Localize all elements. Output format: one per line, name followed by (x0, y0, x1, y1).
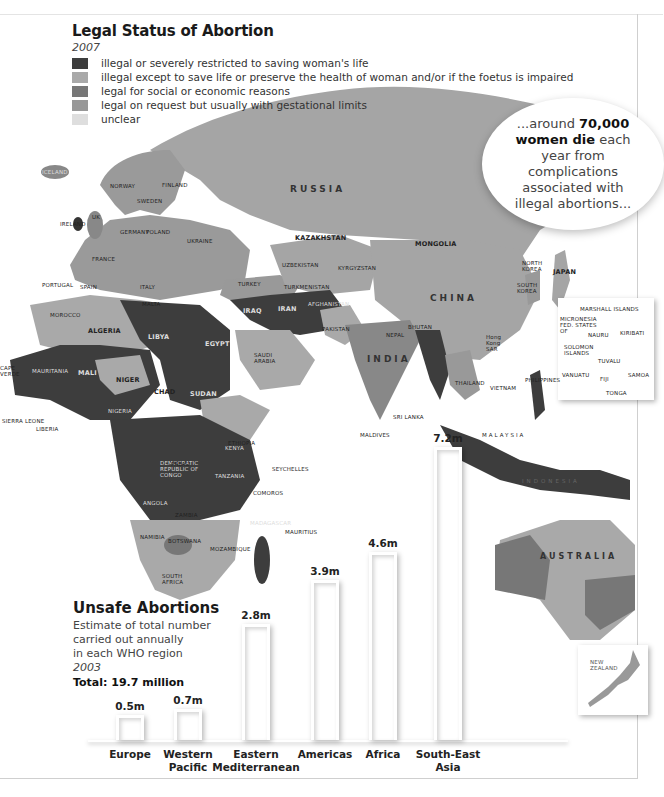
callout-bold: women die (515, 132, 595, 147)
map-label-mauritius: MAURITIUS (285, 529, 317, 535)
map-label-spain: SPAIN (80, 284, 97, 290)
map-label-sri-lanka: SRI LANKA (393, 414, 424, 420)
map-label-vietnam: VIETNAM (490, 385, 516, 391)
map-label-sierra-leone: SIERRA LEONE (2, 418, 44, 424)
map-label-china: CHINA (430, 293, 477, 303)
callout-text: illegal abortions... (515, 196, 631, 211)
map-label-germany: GERMANY (120, 229, 149, 235)
map-label-niger: NIGER (116, 376, 140, 384)
bar-value-label: 7.2m (423, 432, 473, 444)
map-label-russia: RUSSIA (290, 184, 345, 194)
map-label-norway: NORWAY (110, 183, 135, 189)
map-label-indonesia: INDONESIA (522, 478, 580, 484)
unsafe-description: Estimate of total number carried out ann… (73, 619, 219, 675)
map-label-vanuatu: VANUATU (562, 372, 589, 378)
legend-item: legal for social or economic reasons (72, 84, 573, 98)
map-label-mozambique: MOZAMBIQUE (210, 546, 251, 552)
bar-value-label: 4.6m (358, 537, 408, 549)
map-label-turkmenistan: TURKMENISTAN (284, 284, 329, 290)
map-label-turkey: TURKEY (238, 281, 261, 287)
unsafe-total: Total: 19.7 million (73, 676, 219, 689)
map-label-sudan: SUDAN (190, 390, 217, 398)
desc-line: carried out annually (73, 633, 219, 647)
legend-swatch (72, 100, 88, 111)
callout-text: each (595, 132, 630, 147)
desc-line: Estimate of total number (73, 619, 219, 633)
map-label-afghanistan: AFGHANISTAN (308, 301, 349, 307)
map-label-kazakhstan: KAZAKHSTAN (295, 234, 346, 242)
map-label-australia: AUSTRALIA (540, 552, 617, 561)
map-label-nigeria: NIGERIA (108, 408, 132, 414)
legend-label: illegal except to save life or preserve … (101, 71, 573, 83)
unsafe-year: 2003 (73, 661, 219, 675)
bar-value-label: 3.9m (300, 565, 350, 577)
legend-item: legal on request but usually with gestat… (72, 98, 573, 112)
legend-swatch (72, 72, 88, 83)
map-label-nauru: NAURU (588, 332, 609, 338)
legend-title: Legal Status of Abortion (72, 22, 573, 40)
map-label-south-korea: SOUTH KOREA (517, 282, 539, 294)
desc-line: in each WHO region (73, 647, 219, 661)
map-label-iraq: IRAQ (243, 307, 262, 315)
map-label-mali: MALI (78, 369, 97, 377)
map-label-morocco: MOROCCO (50, 312, 81, 318)
deaths-callout: ...around 70,000 women die each year fro… (482, 98, 664, 230)
map-label-maldives: MALDIVES (360, 432, 390, 438)
new-zealand-inset: NEW ZEALAND (578, 645, 648, 715)
bar-eastern-mediterranean (242, 624, 270, 740)
india-shape (345, 320, 420, 420)
legal-status-legend: Legal Status of Abortion 2007 illegal or… (72, 22, 573, 126)
map-label-sweden: SWEDEN (137, 198, 162, 204)
map-label-malaysia: MALAYSIA (482, 432, 525, 438)
map-label-tanzania: TANZANIA (215, 473, 244, 479)
map-label-kenya: KENYA (225, 445, 244, 451)
legend-swatch (72, 58, 88, 69)
callout-text: year from (541, 148, 604, 163)
callout-text: ...around (517, 116, 579, 131)
map-label-angola: ANGOLA (143, 500, 168, 506)
legend-swatch (72, 114, 88, 125)
map-label-madagascar: MADAGASCAR (250, 520, 291, 526)
legend-label: unclear (101, 113, 140, 125)
map-label-new-zealand: NEW ZEALAND (590, 659, 620, 671)
map-label-finland: FINLAND (162, 182, 188, 188)
bar-europe (116, 715, 144, 740)
map-label-malta: MALTA (142, 301, 161, 307)
map-label-japan: JAPAN (553, 268, 576, 276)
map-label-philippines: PHILIPPINES (525, 377, 560, 383)
map-label-iceland: ICELAND (42, 169, 68, 175)
callout-text: complications (528, 164, 618, 179)
map-label-kiribati: KIRIBATI (620, 330, 644, 336)
map-label-uzbekistan: UZBEKISTAN (282, 262, 318, 268)
chart-baseline (88, 740, 568, 742)
map-label-cape-verde: CAPE VERDE (0, 365, 18, 377)
map-label-india: INDIA (367, 354, 411, 364)
callout-text: associated with (522, 180, 623, 195)
map-label-fiji: FIJI (600, 376, 609, 382)
map-label-seychelles: SEYCHELLES (272, 466, 309, 472)
map-label-marshall: MARSHALL ISLANDS (580, 306, 639, 312)
map-label-liberia: LIBERIA (36, 426, 59, 432)
bar-western-pacific (174, 709, 202, 740)
bar-value-label: 2.8m (231, 609, 281, 621)
map-label-botswana: BOTSWANA (168, 538, 201, 544)
map-label-tonga: TONGA (606, 390, 627, 396)
map-label-poland: POLAND (146, 229, 170, 235)
bar-category-label: South-EastAsia (398, 748, 498, 774)
map-label-tuvalu: TUVALU (598, 358, 621, 364)
map-label-uk: UK (92, 214, 100, 220)
map-label-samoa: SAMOA (628, 372, 649, 378)
map-label-iran: IRAN (278, 305, 297, 313)
new-zealand-shape (578, 645, 648, 715)
map-label-hong-kong: Hong Kong SAR (486, 334, 511, 352)
madagascar-shape (254, 536, 270, 584)
map-label-mauritania: MAURITANIA (32, 368, 68, 374)
map-label-nepal: NEPAL (386, 332, 404, 338)
top-rule (0, 14, 663, 15)
map-label-portugal: PORTUGAL (42, 282, 73, 288)
legend-label: legal for social or economic reasons (101, 85, 290, 97)
map-label-saudi: SAUDI ARABIA (254, 352, 279, 364)
southern-africa-shape (130, 520, 240, 600)
map-label-egypt: EGYPT (205, 340, 230, 348)
nsw-shape (585, 575, 635, 630)
